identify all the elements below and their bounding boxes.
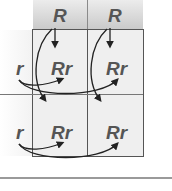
inheritance-arrows [0,0,172,191]
arrow-curve-icon [19,143,62,149]
bottom-rule [0,177,172,179]
arrow-curve-icon [19,144,117,158]
arrow-curve-icon [36,29,52,100]
arrow-curve-icon [19,79,62,85]
arrow-curve-icon [19,80,117,94]
